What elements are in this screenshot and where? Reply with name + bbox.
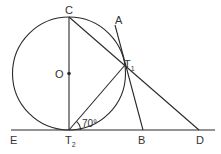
label-e: E [10, 134, 17, 146]
label-b: B [138, 134, 145, 146]
label-t2-sub: 2 [72, 141, 76, 148]
angle-label: 70° [82, 118, 97, 129]
line-cd [69, 17, 199, 130]
label-a: A [115, 14, 123, 26]
label-t1-sub: 1 [131, 65, 135, 72]
label-c: C [65, 4, 73, 16]
label-d: D [196, 134, 204, 146]
geometry-diagram: C A O T1 E T2 B D 70° [0, 0, 221, 154]
label-o: O [55, 68, 64, 80]
label-t2: T2 [65, 134, 76, 148]
center-dot [67, 72, 71, 76]
label-t1: T1 [124, 58, 135, 72]
